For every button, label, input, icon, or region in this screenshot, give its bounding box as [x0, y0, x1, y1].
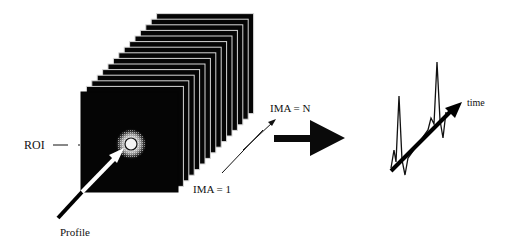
- time-label: time: [467, 97, 485, 108]
- diagram-canvas: ROI Profile IMA = 1 IMA = N time: [0, 0, 508, 247]
- ima-last-label: IMA = N: [270, 102, 310, 114]
- ima-first-label: IMA = 1: [193, 183, 231, 195]
- roi-label: ROI: [24, 138, 45, 152]
- time-intensity-curve: [391, 62, 446, 175]
- diagram-svg: ROI Profile IMA = 1 IMA = N time: [0, 0, 508, 247]
- big-right-arrow: [274, 120, 345, 156]
- profile-label: Profile: [60, 226, 90, 238]
- time-axis-arrow: [391, 102, 462, 171]
- ima-last-arrow: [243, 119, 276, 150]
